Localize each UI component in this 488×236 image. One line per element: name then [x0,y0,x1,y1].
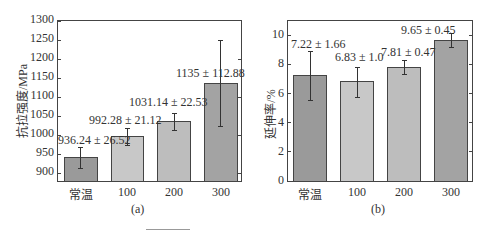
x-tick: 常温 [290,185,330,203]
y-tick: 1100 [14,88,54,103]
y-tick: 1050 [14,107,54,122]
value-label: 992.28 ± 21.12 [89,113,162,128]
error-bar [310,51,311,100]
y-tick: 10 [244,27,284,42]
x-tick: 100 [107,185,147,200]
error-bar [357,67,358,97]
error-bar [80,147,81,168]
y-tick: 900 [14,164,54,179]
y-tick: 1250 [14,31,54,46]
divider [146,229,190,230]
value-label: 7.81 ± 0.47 [381,45,436,60]
y-tick: 1300 [14,12,54,27]
y-tick: 1150 [14,69,54,84]
y-tick: 8 [244,56,284,71]
bar-300 [434,40,468,182]
x-tick: 200 [154,185,194,200]
value-label: 6.83 ± 1.0 [335,50,384,65]
caption-b: (b) [371,202,385,217]
chart-a: 抗拉强度/MPa 1300 1250 1200 1150 1100 1050 1… [0,0,244,236]
y-tick: 2 [244,144,284,159]
y-tick: 4 [244,115,284,130]
chart-b: 延伸率/% 10 8 6 4 2 0 7.22 ± 1.66 6.83 ± 1.… [244,0,488,236]
y-tick: 1000 [14,126,54,141]
y-tick: 1200 [14,50,54,65]
value-label: 1135 ± 112.88 [176,66,245,81]
value-label: 9.65 ± 0.45 [401,23,456,38]
caption-a: (a) [131,202,144,217]
bar-200 [387,67,421,182]
bar-300 [204,83,238,182]
x-tick: 常温 [61,185,101,203]
x-tick: 100 [337,185,377,200]
value-label: 1031.14 ± 22.53 [129,95,208,110]
y-tick: 0 [244,173,284,188]
x-tick: 300 [201,185,241,200]
y-tick: 6 [244,86,284,101]
error-bar [174,113,175,130]
x-tick: 300 [431,185,471,200]
error-bar [220,40,221,126]
y-tick: 950 [14,145,54,160]
value-label: 936.24 ± 26.52 [58,133,131,148]
x-tick: 200 [384,185,424,200]
bar-room-temp [64,157,98,182]
error-bar [404,60,405,74]
